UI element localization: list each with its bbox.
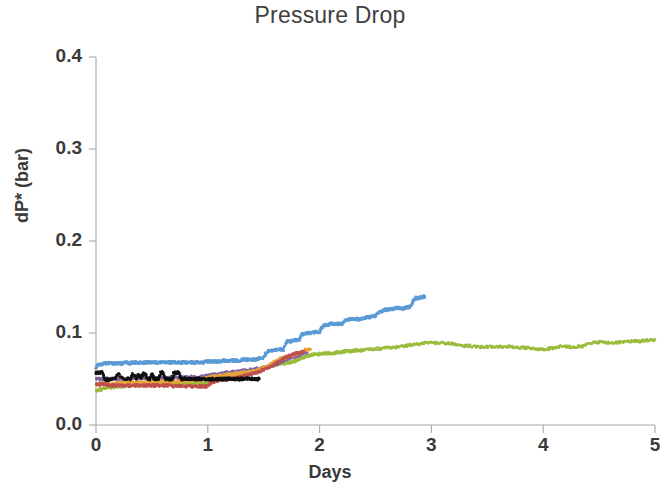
data-point <box>118 373 121 376</box>
data-point <box>409 307 412 310</box>
data-point <box>258 378 261 381</box>
plot-area <box>0 0 660 489</box>
data-point <box>300 335 303 338</box>
x-tick-label-2: 2 <box>300 434 340 456</box>
chart-container: Pressure Drop dP* (bar) Days 0.00.10.20.… <box>0 0 660 489</box>
data-point <box>568 345 571 348</box>
x-tick-label-0: 0 <box>76 434 116 456</box>
x-tick-label-3: 3 <box>411 434 451 456</box>
y-tick-label-0: 0.0 <box>24 413 82 435</box>
y-tick-label-4: 0.4 <box>24 45 82 67</box>
data-point <box>423 295 426 298</box>
x-tick-label-4: 4 <box>523 434 563 456</box>
data-point <box>486 347 489 350</box>
data-point <box>309 348 312 351</box>
x-tick-label-5: 5 <box>635 434 660 456</box>
data-point <box>447 341 450 344</box>
data-point <box>149 379 152 382</box>
data-point <box>376 346 379 349</box>
data-point <box>140 377 143 380</box>
data-point <box>654 338 657 341</box>
y-tick-label-2: 0.2 <box>24 229 82 251</box>
data-series-group <box>94 294 656 393</box>
data-point <box>172 375 175 378</box>
data-point <box>644 340 647 343</box>
data-point <box>303 350 306 353</box>
data-point <box>320 329 323 332</box>
y-tick-label-1: 0.1 <box>24 321 82 343</box>
data-point <box>282 349 285 352</box>
x-tick-label-1: 1 <box>188 434 228 456</box>
y-tick-label-3: 0.3 <box>24 137 82 159</box>
series-blue <box>94 294 426 370</box>
